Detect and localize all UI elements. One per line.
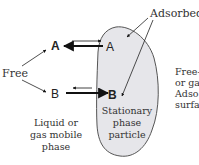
svg-text:or ga: or ga	[175, 77, 199, 88]
mobile-phase-label: Liquid or gas mobile phase	[30, 117, 83, 152]
free-label: Free	[2, 67, 28, 80]
svg-text:gas mobile: gas mobile	[30, 129, 83, 140]
svg-text:Stationary: Stationary	[102, 105, 153, 116]
svg-text:phase: phase	[42, 141, 71, 152]
right-caption: Free- or ga Adso surfa	[174, 66, 199, 110]
adsorbed-label: Adsorbed	[149, 7, 199, 20]
species-b-adsorbed: B	[108, 88, 117, 102]
adsorption-diagram: Adsorbed Free A A B B Liquid or gas mobi…	[0, 0, 199, 165]
species-a-adsorbed: A	[106, 40, 114, 54]
free-pointer-b	[22, 80, 46, 92]
svg-text:particle: particle	[108, 129, 146, 140]
svg-text:Adso: Adso	[174, 88, 199, 99]
svg-text:Liquid or: Liquid or	[34, 117, 78, 128]
free-pointer-a	[22, 50, 46, 66]
species-b-free: B	[51, 87, 59, 101]
svg-text:phase: phase	[113, 117, 142, 128]
species-a-free: A	[51, 39, 60, 53]
svg-text:surfa: surfa	[175, 99, 199, 110]
svg-text:Free-: Free-	[175, 66, 199, 77]
